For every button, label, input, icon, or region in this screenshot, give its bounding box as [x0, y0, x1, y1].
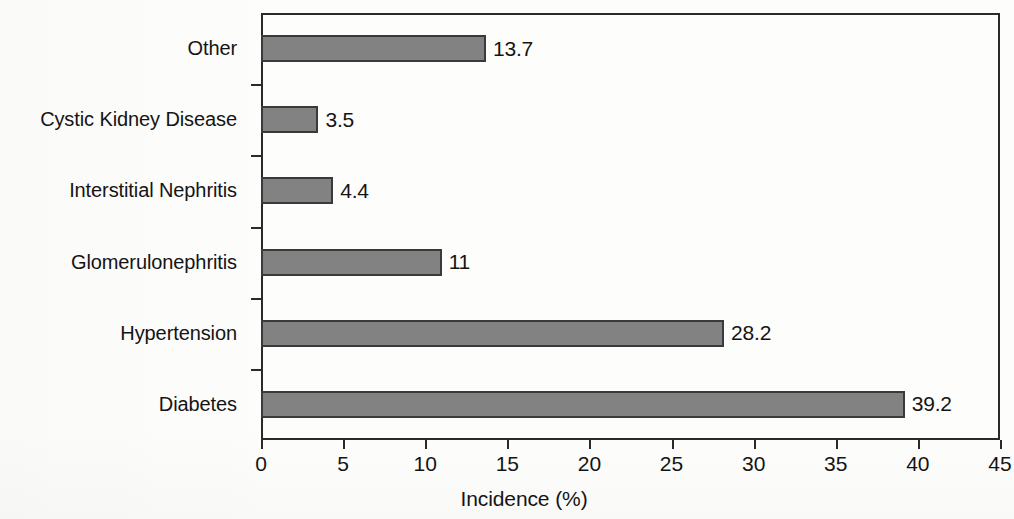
y-axis-tick-label: Interstitial Nephritis	[69, 179, 237, 202]
y-axis-label-row: Other	[0, 13, 250, 84]
x-axis-tick	[754, 440, 756, 449]
bar-series: 13.7 3.5 4.4 11 28.2 39.2	[261, 13, 1000, 440]
bar-value-label: 11	[449, 250, 470, 274]
x-axis-tick-label: 0	[255, 452, 267, 476]
x-axis-tick-label: 30	[742, 452, 765, 476]
bar: 3.5	[261, 106, 318, 133]
bar-row: 39.2	[261, 369, 1000, 440]
x-axis-tick	[343, 440, 345, 449]
x-axis-tick-label: 5	[337, 452, 349, 476]
bar-value-label: 28.2	[731, 321, 771, 345]
y-axis-label-row: Hypertension	[0, 298, 250, 369]
y-axis-tick-label: Hypertension	[120, 322, 237, 345]
bar-row: 13.7	[261, 13, 1000, 84]
y-axis-category-labels: Other Cystic Kidney Disease Interstitial…	[0, 13, 250, 440]
chart-page: Other Cystic Kidney Disease Interstitial…	[0, 0, 1014, 519]
y-axis-label-row: Interstitial Nephritis	[0, 155, 250, 226]
y-axis-tick-label: Glomerulonephritis	[71, 251, 237, 274]
x-axis-tick-label: 45	[988, 452, 1011, 476]
bar-value-label: 13.7	[493, 37, 533, 61]
x-axis-tick	[261, 440, 263, 449]
x-axis-tick-label: 15	[496, 452, 519, 476]
x-axis-tick	[672, 440, 674, 449]
bar-row: 28.2	[261, 298, 1000, 369]
bar-value-label: 3.5	[325, 108, 354, 132]
bar-value-label: 4.4	[340, 179, 369, 203]
y-axis-label-row: Diabetes	[0, 369, 250, 440]
x-axis-tick	[836, 440, 838, 449]
x-axis-tick-label: 25	[660, 452, 683, 476]
x-axis-tick	[1000, 440, 1002, 449]
bar: 11	[261, 249, 442, 276]
x-axis-tick-label: 40	[906, 452, 929, 476]
bar: 4.4	[261, 177, 333, 204]
y-axis-tick-label: Diabetes	[159, 393, 237, 416]
bar-row: 11	[261, 226, 1000, 297]
bar: 39.2	[261, 391, 905, 418]
y-axis-label-row: Cystic Kidney Disease	[0, 84, 250, 155]
bar-value-label: 39.2	[912, 392, 952, 416]
x-axis-tick	[589, 440, 591, 449]
bar-row: 4.4	[261, 155, 1000, 226]
x-axis-tick	[918, 440, 920, 449]
x-axis-tick-label: 35	[824, 452, 847, 476]
bar-row: 3.5	[261, 84, 1000, 155]
x-axis-tick-label: 20	[578, 452, 601, 476]
bar: 28.2	[261, 320, 724, 347]
y-axis-tick-label: Cystic Kidney Disease	[40, 108, 237, 131]
x-axis-tick-label: 10	[414, 452, 437, 476]
y-axis-label-row: Glomerulonephritis	[0, 226, 250, 297]
y-axis-tick-label: Other	[187, 37, 237, 60]
x-axis-tick	[507, 440, 509, 449]
x-axis-title-text: Incidence (%)	[460, 487, 587, 511]
x-axis-tick	[425, 440, 427, 449]
bar: 13.7	[261, 35, 486, 62]
x-axis-title: Incidence (%)	[0, 487, 1014, 511]
